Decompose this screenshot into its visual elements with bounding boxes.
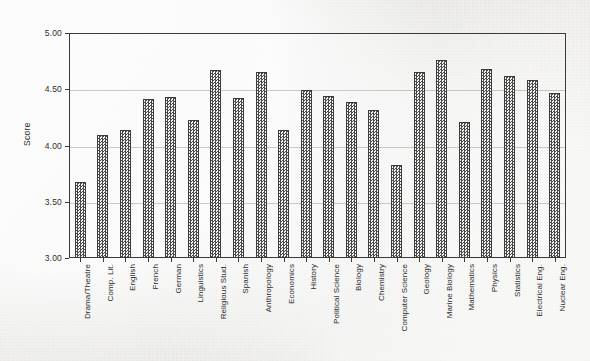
x-axis-tick-label: German: [174, 264, 183, 294]
bar: [459, 122, 470, 258]
bar-chart-figure: Score 3.003.504.004.505.00 Drama/Theatre…: [0, 0, 590, 361]
x-axis-tick-label: History: [309, 264, 318, 290]
x-axis-tick-label: Economics: [287, 264, 296, 304]
bar: [165, 97, 176, 258]
x-axis-tick-label: Nuclear Eng.: [558, 264, 567, 311]
x-axis-tick-mark: [193, 258, 194, 262]
x-axis-tick-label: Comp. Lit.: [106, 264, 115, 301]
x-axis-tick-label: Computer Science: [400, 264, 409, 331]
bar: [97, 135, 108, 258]
y-axis-tick-label: 3.00: [45, 253, 62, 263]
bar: [256, 72, 267, 258]
bar: [323, 96, 334, 258]
x-axis-tick-mark: [555, 258, 556, 262]
bar-series: [69, 33, 566, 258]
bar: [504, 76, 515, 258]
bar: [391, 165, 402, 258]
bar: [188, 120, 199, 258]
bar: [368, 110, 379, 259]
x-axis-tick-mark: [216, 258, 217, 262]
x-axis-tick-mark: [238, 258, 239, 262]
x-axis-tick-mark: [442, 258, 443, 262]
x-axis-tick-label: Anthropology: [264, 264, 273, 312]
x-axis-tick-label: Biology: [354, 264, 363, 291]
y-axis-tick-label: 4.50: [45, 84, 62, 94]
x-axis-tick-label: Marine Biology: [445, 264, 454, 318]
x-axis-tick-mark: [261, 258, 262, 262]
x-axis-tick-mark: [419, 258, 420, 262]
bar: [414, 72, 425, 258]
x-axis-tick-mark: [329, 258, 330, 262]
bar: [549, 93, 560, 258]
x-axis-tick-mark: [532, 258, 533, 262]
bar: [210, 70, 221, 258]
x-axis-tick-mark: [125, 258, 126, 262]
bar: [278, 130, 289, 258]
x-axis-tick-labels: Drama/TheatreComp. Lit.EnglishFrenchGerm…: [69, 264, 566, 359]
x-axis-tick-label: Statistics: [513, 264, 522, 297]
bar: [346, 102, 357, 258]
bar: [301, 90, 312, 258]
x-axis-tick-label: French: [151, 264, 160, 290]
x-axis-tick-mark: [80, 258, 81, 262]
y-axis-tick-label: 4.00: [45, 141, 62, 151]
y-axis-tick-labels: 3.003.504.004.505.00: [0, 0, 65, 361]
x-axis-tick-mark: [510, 258, 511, 262]
x-axis-tick-mark: [148, 258, 149, 262]
x-axis-tick-mark: [306, 258, 307, 262]
x-axis-tick-mark: [487, 258, 488, 262]
x-axis-tick-mark: [397, 258, 398, 262]
bar: [436, 60, 447, 258]
y-axis-tick-label: 3.50: [45, 197, 62, 207]
x-axis-tick-mark: [171, 258, 172, 262]
bar: [120, 130, 131, 258]
x-axis-tick-mark: [103, 258, 104, 262]
y-axis-tick-label: 5.00: [45, 28, 62, 38]
x-axis-tick-label: Chemistry: [377, 264, 386, 301]
x-axis-tick-label: Linguistics: [196, 264, 205, 302]
x-axis-tick-label: Mathematics: [467, 264, 476, 310]
x-axis-tick-label: Drama/Theatre: [83, 264, 92, 319]
x-axis-tick-mark: [351, 258, 352, 262]
x-axis-tick-mark: [284, 258, 285, 262]
x-axis-tick-mark: [374, 258, 375, 262]
x-axis-tick-label: Religious Stud.: [219, 264, 228, 319]
x-axis-tick-label: English: [128, 264, 137, 291]
x-axis-tick-label: Spanish: [241, 264, 250, 294]
bar: [527, 80, 538, 258]
bar: [75, 182, 86, 259]
bar: [143, 99, 154, 258]
x-axis-tick-label: Political Science: [332, 264, 341, 324]
x-axis-tick-label: Geology: [422, 264, 431, 295]
x-axis-tick-label: Physics: [490, 264, 499, 292]
x-axis-tick-mark: [464, 258, 465, 262]
x-axis-tick-label: Electrical Eng.: [535, 264, 544, 317]
bar: [233, 98, 244, 258]
bar: [481, 69, 492, 258]
